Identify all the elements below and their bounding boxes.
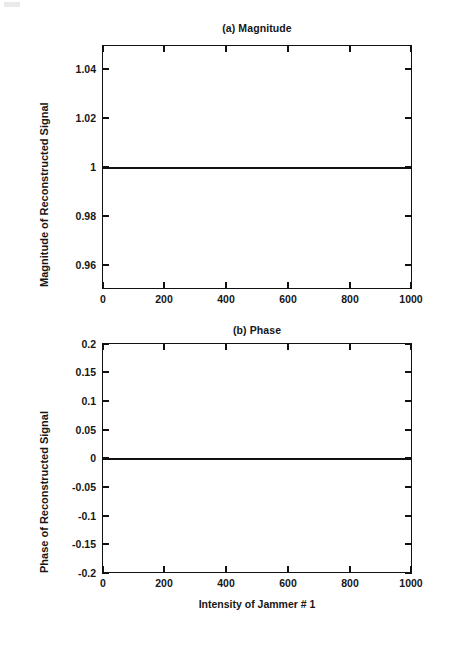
- panel-phase-ytick-label-0-15: 0.15: [50, 366, 96, 378]
- panel-magnitude-ytick-right-1-02: [405, 117, 412, 119]
- panel-magnitude-xtick-label-200: 200: [155, 293, 173, 305]
- panel-phase-ytick-label-neg-0-1: -0.1: [50, 510, 96, 522]
- panel-magnitude-ytick-1-04: [102, 68, 109, 70]
- panel-magnitude-ytick-label-1-02: 1.02: [54, 112, 96, 124]
- panel-phase-ylabel: Phase of Reconstructed Signal: [38, 411, 50, 573]
- panel-magnitude-xtick-top-1000: [410, 45, 412, 52]
- panel-phase-xtick-1000: [410, 566, 412, 573]
- panel-magnitude-ytick-label-1: 1: [54, 161, 96, 173]
- panel-phase-ytick-0-05: [102, 429, 109, 431]
- panel-phase-ytick-label-neg-0-05: -0.05: [50, 481, 96, 493]
- panel-phase-xtick-label-400: 400: [217, 577, 235, 589]
- panel-phase-xtick-top-1000: [410, 343, 412, 350]
- panel-phase-xtick-600: [287, 566, 289, 573]
- panel-phase-xtick-label-800: 800: [341, 577, 359, 589]
- panel-phase-ytick-neg-0-1: [102, 515, 109, 517]
- panel-magnitude-xtick-top-400: [225, 45, 227, 52]
- panel-phase-xtick-200: [163, 566, 165, 573]
- panel-phase-xtick-label-200: 200: [155, 577, 173, 589]
- panel-phase-series-line: [102, 458, 412, 460]
- panel-magnitude-ylabel: Magnitude of Reconstructed Signal: [38, 102, 50, 287]
- panel-phase-ytick-right-neg-0-05: [405, 486, 412, 488]
- panel-magnitude-ytick-right-0-98: [405, 215, 412, 217]
- panel-phase-ytick-label-0-1: 0.1: [50, 395, 96, 407]
- panel-magnitude-xtick-label-400: 400: [217, 293, 235, 305]
- panel-magnitude-xtick-label-600: 600: [279, 293, 297, 305]
- panel-phase-xlabel: Intensity of Jammer # 1: [102, 598, 412, 610]
- panel-magnitude-series-line: [102, 167, 412, 169]
- panel-phase-ytick-right-0-05: [405, 429, 412, 431]
- panel-magnitude-ytick-right-1-04: [405, 68, 412, 70]
- panel-phase-ytick-neg-0-05: [102, 486, 109, 488]
- panel-phase-xtick-0: [102, 566, 104, 573]
- panel-magnitude-ytick-right-0-96: [405, 264, 412, 266]
- panel-phase: (b) Phase Phase of Reconstructed Signal …: [0, 320, 449, 646]
- panel-phase-xtick-top-800: [349, 343, 351, 350]
- panel-phase-ytick-right-0: [405, 457, 412, 459]
- panel-phase-xtick-400: [225, 566, 227, 573]
- panel-magnitude-ytick-label-0-98: 0.98: [54, 210, 96, 222]
- panel-magnitude-ytick-label-1-04: 1.04: [54, 63, 96, 75]
- panel-magnitude: (a) Magnitude Magnitude of Reconstructed…: [0, 0, 449, 320]
- panel-phase-xtick-label-1000: 1000: [399, 577, 422, 589]
- panel-phase-ytick-right-neg-0-15: [405, 543, 412, 545]
- figure-canvas: (a) Magnitude Magnitude of Reconstructed…: [0, 0, 449, 646]
- panel-phase-ytick-0-15: [102, 371, 109, 373]
- panel-phase-ytick-label-0-05: 0.05: [50, 424, 96, 436]
- panel-phase-xtick-top-200: [163, 343, 165, 350]
- panel-phase-ytick-0-1: [102, 400, 109, 402]
- panel-phase-ytick-right-0-15: [405, 371, 412, 373]
- panel-phase-xtick-top-600: [287, 343, 289, 350]
- panel-phase-xtick-800: [349, 566, 351, 573]
- panel-phase-ytick-label-neg-0-15: -0.15: [50, 538, 96, 550]
- panel-magnitude-ytick-0-96: [102, 264, 109, 266]
- panel-magnitude-xtick-top-800: [349, 45, 351, 52]
- panel-phase-ytick-right-0-1: [405, 400, 412, 402]
- panel-phase-ytick-neg-0-15: [102, 543, 109, 545]
- panel-phase-xtick-top-400: [225, 343, 227, 350]
- panel-magnitude-xtick-0: [102, 282, 104, 289]
- panel-magnitude-ytick-1-02: [102, 117, 109, 119]
- panel-magnitude-xtick-400: [225, 282, 227, 289]
- panel-magnitude-ytick-0-98: [102, 215, 109, 217]
- panel-phase-title: (b) Phase: [102, 324, 412, 336]
- panel-magnitude-xtick-label-0: 0: [100, 293, 106, 305]
- panel-phase-ytick-right-neg-0-1: [405, 515, 412, 517]
- panel-phase-ytick-label-0-2: 0.2: [50, 338, 96, 350]
- panel-magnitude-xtick-label-800: 800: [341, 293, 359, 305]
- panel-phase-ytick-label-0: 0: [50, 452, 96, 464]
- panel-magnitude-xtick-top-200: [163, 45, 165, 52]
- panel-phase-ytick-0: [102, 457, 109, 459]
- panel-magnitude-ytick-1: [102, 166, 109, 168]
- panel-magnitude-xtick-800: [349, 282, 351, 289]
- panel-magnitude-xtick-label-1000: 1000: [399, 293, 422, 305]
- panel-magnitude-xtick-top-600: [287, 45, 289, 52]
- panel-magnitude-title: (a) Magnitude: [102, 22, 412, 34]
- panel-magnitude-xtick-1000: [410, 282, 412, 289]
- panel-magnitude-ytick-label-0-96: 0.96: [54, 259, 96, 271]
- panel-magnitude-xtick-600: [287, 282, 289, 289]
- panel-phase-xtick-label-0: 0: [100, 577, 106, 589]
- panel-phase-xtick-label-600: 600: [279, 577, 297, 589]
- panel-magnitude-xtick-top-0: [102, 45, 104, 52]
- panel-phase-xtick-top-0: [102, 343, 104, 350]
- panel-magnitude-ytick-right-1: [405, 166, 412, 168]
- panel-phase-ytick-label-neg-0-2: -0.2: [50, 567, 96, 579]
- panel-magnitude-xtick-200: [163, 282, 165, 289]
